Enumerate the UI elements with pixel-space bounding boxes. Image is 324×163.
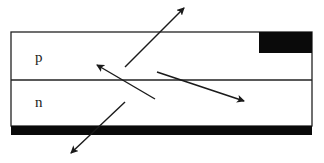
top-contact xyxy=(259,32,312,53)
contacts xyxy=(11,32,312,135)
n-region-label: n xyxy=(35,94,43,110)
arrow-down-right-icon xyxy=(157,72,244,101)
arrow-up-left-icon xyxy=(97,65,155,99)
arrow-up-right-icon xyxy=(125,8,184,67)
p-region-label: p xyxy=(35,49,43,65)
pn-junction-diagram: pn xyxy=(0,0,324,163)
bottom-contact xyxy=(11,126,312,135)
